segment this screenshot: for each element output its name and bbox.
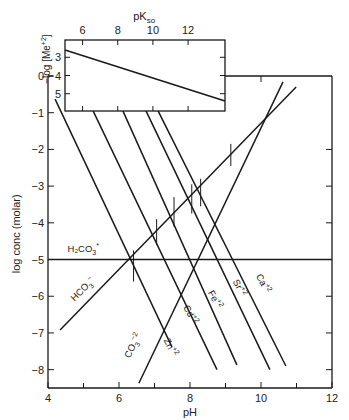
y-tick-label: −5 [31,254,44,266]
series-label: Cd+2 [181,303,201,327]
y-tick-label: −7 [31,327,44,339]
series-line-hco3- [60,87,296,330]
series-line-fe-2 [123,111,237,365]
inset-x-tick-label: 6 [80,24,86,36]
inset-y-tick-label: 4 [55,70,61,82]
series-label: Ca+2 [254,271,274,295]
x-tick-label: 8 [187,392,193,404]
inset-plot: 681012345pKso−log [Me+2] [40,10,225,111]
inset-y-tick-label: 3 [55,51,61,63]
solubility-chart: 46810120−1−2−3−4−5−6−7−8pHlog conc (mola… [0,0,349,420]
x-tick-label: 4 [45,392,51,404]
series-label: H₂CO3* [68,242,100,256]
x-tick-label: 6 [116,392,122,404]
series-label: HCO3− [68,274,98,304]
inset-y-axis-label: −log [Me+2] [40,34,52,84]
inset-x-tick-label: 10 [147,24,159,36]
y-tick-label: −3 [31,180,44,192]
x-axis-label: pH [183,406,197,418]
inset-x-axis-label: pKso [133,10,155,25]
series-label: CO3−2 [121,331,145,361]
y-tick-label: −6 [31,290,44,302]
y-tick-label: −2 [31,143,44,155]
main-plot: 46810120−1−2−3−4−5−6−7−8pHlog conc (mola… [10,70,338,418]
y-axis-label: log conc (molar) [10,194,22,273]
x-tick-label: 10 [255,392,267,404]
y-tick-label: −8 [31,364,44,376]
inset-x-tick-label: 12 [182,24,194,36]
series-label: Fe+2 [206,288,226,311]
series-line-cd-2 [93,111,217,370]
y-tick-label: −4 [31,217,44,229]
inset-x-tick-label: 8 [115,24,121,36]
series-line-zn-2 [55,99,172,347]
inset-y-tick-label: 5 [55,88,61,100]
series-line-co3-2 [139,82,283,383]
series-line-ca-2 [158,111,286,366]
series-label: Zn+2 [162,336,182,359]
x-tick-label: 12 [326,392,338,404]
y-tick-label: −1 [31,107,44,119]
